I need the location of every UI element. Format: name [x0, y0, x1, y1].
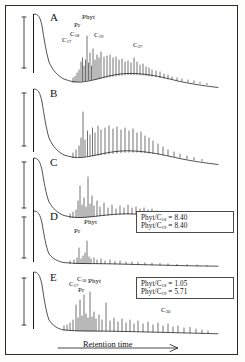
- ratio-operator: =: [168, 280, 172, 288]
- ratio-operator: =: [168, 214, 172, 222]
- panel-letter-d: D: [50, 211, 58, 222]
- peak-label-sub: 19: [99, 34, 104, 39]
- annotation-line-e-1: Phyt/C18 = 1.05: [141, 280, 229, 288]
- ratio-operator: =: [168, 222, 172, 230]
- peak-label-sub: 18: [82, 278, 87, 283]
- peak-label-text: Phyt: [84, 218, 97, 226]
- peak-label-text: Pr: [74, 21, 80, 29]
- peak-label-text: C: [70, 30, 75, 38]
- panel-letter-c: C: [50, 157, 57, 168]
- peak-label-pr-d: Pr: [74, 228, 80, 235]
- trace-panel-b: [22, 89, 218, 165]
- figure-root: A B C D E Phyt Pr C17 C18 C19 C27 Phyt P…: [0, 0, 245, 362]
- annotation-line-d-1: Phyt/C18 = 8.40: [141, 214, 229, 222]
- ratio-numerator: Phyt: [141, 288, 155, 296]
- chromatogram-traces: [0, 0, 245, 362]
- ratio-numerator: Phyt: [141, 214, 155, 222]
- peak-label-c18-e: C18: [77, 276, 86, 283]
- ratio-denominator: C: [157, 222, 162, 230]
- panel-letter-e: E: [50, 272, 57, 283]
- ratio-value: 8.40: [174, 222, 187, 230]
- peak-label-text: C: [62, 36, 67, 44]
- ratio-denominator-sub: 18: [162, 217, 167, 222]
- ratio-denominator-sub: 19: [162, 291, 167, 296]
- annotation-box-panel-e: Phyt/C18 = 1.05 Phyt/C19 = 5.71: [136, 277, 234, 299]
- peak-label-text: Phyt: [82, 13, 95, 21]
- ratio-value: 1.05: [174, 280, 187, 288]
- peak-label-sub: 30: [166, 309, 171, 314]
- peak-label-pr-e: Pr: [78, 287, 84, 294]
- peak-label-text: Phyt: [88, 277, 101, 285]
- peak-label-sub: 27: [138, 44, 143, 49]
- peak-label-phyt-e: Phyt: [88, 278, 101, 285]
- peak-label-sub: 18: [75, 33, 80, 38]
- peak-label-c27-a: C27: [133, 42, 142, 49]
- ratio-denominator-sub: 19: [162, 225, 167, 230]
- ratio-denominator: C: [157, 280, 162, 288]
- peak-label-c30-e: C30: [161, 307, 170, 314]
- peak-label-text: Pr: [74, 227, 80, 235]
- peak-label-text: C: [77, 275, 82, 283]
- ratio-denominator: C: [157, 288, 162, 296]
- ratio-denominator-sub: 18: [162, 283, 167, 288]
- peak-label-phyt-a: Phyt: [82, 14, 95, 21]
- peak-label-sub: 17: [67, 39, 72, 44]
- ratio-denominator: C: [157, 214, 162, 222]
- peak-label-text: C: [69, 280, 74, 288]
- peak-label-c18-a: C18: [70, 31, 79, 38]
- peak-label-text: Pr: [78, 286, 84, 294]
- ratio-operator: =: [168, 288, 172, 296]
- peak-label-text: C: [133, 41, 138, 49]
- ratio-value: 5.71: [174, 288, 187, 296]
- trace-panel-a: [22, 14, 218, 88]
- peak-label-c17-a: C17: [62, 37, 71, 44]
- ratio-numerator: Phyt: [141, 280, 155, 288]
- annotation-line-d-2: Phyt/C19 = 8.40: [141, 222, 229, 230]
- peak-label-c19-a: C19: [94, 32, 103, 39]
- ratio-value: 8.40: [174, 214, 187, 222]
- panel-letter-b: B: [50, 88, 57, 99]
- peak-label-text: C: [161, 306, 166, 314]
- ratio-numerator: Phyt: [141, 222, 155, 230]
- peak-label-phyt-d: Phyt: [84, 219, 97, 226]
- peak-label-text: C: [94, 31, 99, 39]
- annotation-box-panel-d: Phyt/C18 = 8.40 Phyt/C19 = 8.40: [136, 211, 234, 233]
- annotation-line-e-2: Phyt/C19 = 5.71: [141, 288, 229, 296]
- peak-label-sub: 17: [74, 283, 79, 288]
- panel-letter-a: A: [50, 12, 58, 23]
- x-axis-label: Retention time: [83, 341, 133, 349]
- peak-label-pr-a: Pr: [74, 22, 80, 29]
